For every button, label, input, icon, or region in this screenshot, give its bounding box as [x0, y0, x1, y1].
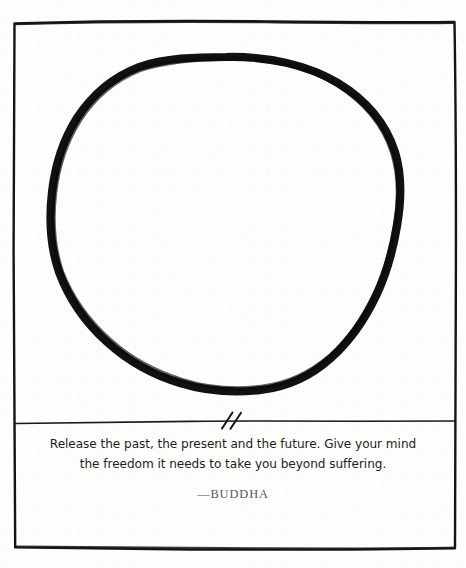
enso-circle	[50, 57, 400, 391]
quote-line-2: the freedom it needs to take you beyond …	[0, 454, 466, 474]
ink-artwork	[0, 0, 466, 568]
quote-card: Release the past, the present and the fu…	[0, 0, 466, 568]
attribution: —BUDDHA	[0, 484, 466, 502]
quote-line-1: Release the past, the present and the fu…	[0, 434, 466, 454]
quote-block: Release the past, the present and the fu…	[0, 434, 466, 474]
attribution-text: —BUDDHA	[197, 487, 269, 501]
